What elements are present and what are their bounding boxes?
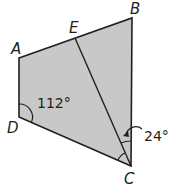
vertex-label-e: E xyxy=(69,19,79,37)
vertex-label-b: B xyxy=(130,0,140,18)
vertex-label-d: D xyxy=(7,119,19,137)
angle-label-c: 24° xyxy=(144,128,169,144)
vertex-label-c: C xyxy=(124,170,135,188)
vertex-label-a: A xyxy=(10,40,21,58)
geometry-diagram: A B C D E 112° 24° xyxy=(0,0,170,194)
angle-label-d: 112° xyxy=(37,95,71,111)
